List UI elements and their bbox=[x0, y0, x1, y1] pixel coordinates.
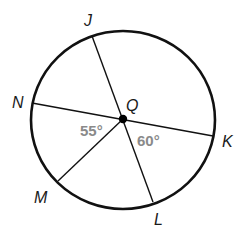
label-m: M bbox=[34, 189, 48, 206]
label-k: K bbox=[222, 133, 234, 150]
label-l: L bbox=[154, 211, 163, 228]
angle-kql-label: 60° bbox=[137, 132, 160, 149]
label-q: Q bbox=[126, 97, 138, 114]
center-point-q bbox=[119, 115, 127, 123]
label-n: N bbox=[12, 94, 24, 111]
angle-nqm-label: 55° bbox=[80, 122, 103, 139]
label-j: J bbox=[83, 12, 93, 29]
circle-diagram: J N Q K M L 55° 60° bbox=[0, 0, 243, 239]
